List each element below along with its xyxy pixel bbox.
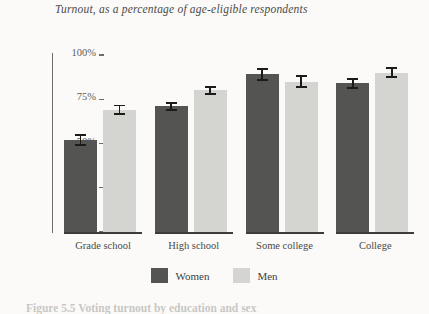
bar-men[interactable]: [375, 73, 408, 232]
bar-group: High school: [155, 55, 233, 232]
error-bar: [80, 134, 82, 146]
error-bar-cap-top: [114, 105, 125, 107]
error-bar-cap-bottom: [296, 86, 307, 88]
x-axis-label: Some college: [246, 240, 324, 251]
group-baseline: [246, 232, 324, 234]
bar-rect: [246, 74, 279, 232]
error-bar: [352, 78, 354, 89]
legend-swatch: [151, 268, 168, 283]
group-baseline: [336, 232, 414, 234]
bar-women[interactable]: [336, 83, 369, 232]
bar-rect: [375, 73, 408, 232]
bar-rect: [194, 90, 227, 232]
error-bar-cap-bottom: [257, 79, 268, 81]
legend-label: Men: [257, 270, 277, 282]
legend-swatch: [233, 268, 250, 283]
chart-legend: WomenMen: [0, 268, 429, 283]
bar-men[interactable]: [285, 82, 318, 232]
bar-rect: [155, 106, 188, 232]
legend-item-women[interactable]: Women: [151, 268, 209, 283]
error-bar: [170, 102, 172, 111]
error-bar-cap-bottom: [205, 93, 216, 95]
group-baseline: [64, 232, 142, 234]
error-bar-cap-bottom: [386, 76, 397, 78]
bar-rect: [336, 83, 369, 232]
legend-item-men[interactable]: Men: [233, 268, 277, 283]
x-axis-label: High school: [155, 240, 233, 251]
figure-caption: Figure 5.5 Voting turnout by education a…: [26, 303, 419, 314]
bar-women[interactable]: [155, 106, 188, 232]
x-axis-label: College: [336, 240, 414, 251]
x-axis-label: Grade school: [64, 240, 142, 251]
error-bar: [209, 86, 211, 95]
error-bar: [261, 68, 263, 80]
bar-rect: [285, 82, 318, 232]
error-bar-cap-bottom: [347, 87, 358, 89]
error-bar-cap-top: [296, 75, 307, 77]
bar-rect: [64, 140, 97, 232]
error-bar-cap-bottom: [166, 109, 177, 111]
chart-title: Turnout, as a percentage of age-eligible…: [55, 3, 308, 15]
error-bar-cap-top: [347, 78, 358, 80]
error-bar-cap-bottom: [114, 113, 125, 115]
error-bar: [119, 105, 121, 116]
error-bar-cap-top: [75, 134, 86, 136]
bar-women[interactable]: [246, 74, 279, 232]
error-bar-cap-bottom: [75, 144, 86, 146]
figure-container: Turnout, as a percentage of age-eligible…: [0, 0, 429, 314]
plot-area: 100%75%50%25%0%Grade schoolHigh schoolSo…: [52, 55, 415, 232]
error-bar-cap-top: [205, 86, 216, 88]
error-bar-cap-top: [257, 68, 268, 70]
error-bar: [300, 75, 302, 87]
group-baseline: [155, 232, 233, 234]
bar-group: Grade school: [64, 55, 142, 232]
error-bar-cap-top: [386, 67, 397, 69]
bar-men[interactable]: [194, 90, 227, 232]
error-bar: [391, 67, 393, 78]
bar-rect: [103, 110, 136, 232]
bar-women[interactable]: [64, 140, 97, 232]
bar-group: College: [336, 55, 414, 232]
legend-label: Women: [175, 270, 209, 282]
bar-men[interactable]: [103, 110, 136, 232]
bar-group: Some college: [246, 55, 324, 232]
error-bar-cap-top: [166, 102, 177, 104]
